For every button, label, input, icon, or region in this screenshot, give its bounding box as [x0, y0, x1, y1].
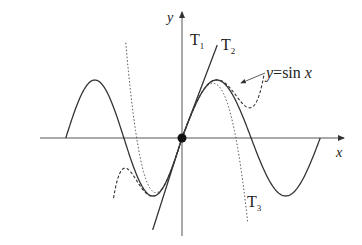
t2-curve	[126, 43, 248, 224]
taylor-diagram: x y T1 T2 T3 y=sin x	[0, 0, 362, 245]
origin-point	[178, 134, 187, 143]
t2-label: T2	[221, 36, 235, 56]
sin-label: y=sin x	[264, 64, 312, 82]
y-axis-label: y	[165, 10, 174, 25]
sin-label-leader	[241, 73, 265, 83]
t3-label: T3	[247, 193, 262, 213]
t1-label: T1	[190, 31, 204, 51]
x-axis-label: x	[335, 145, 343, 160]
